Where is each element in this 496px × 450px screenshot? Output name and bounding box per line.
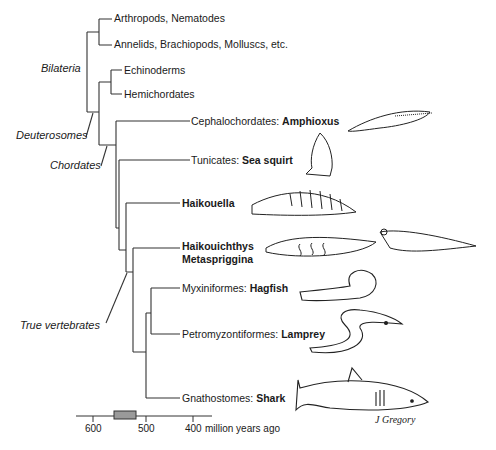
taxon-hemichordates: Hemichordates [124, 88, 195, 100]
taxon-myxiniformes: Myxiniformes: Hagfish [182, 282, 288, 294]
haikouichthys-drawing [266, 237, 376, 256]
hagfish-drawing [300, 270, 376, 300]
taxon-echinoderms: Echinoderms [124, 64, 185, 76]
artist-credit: J Gregory [375, 414, 415, 425]
taxon-haikouichthys: Haikouichthys [182, 240, 254, 252]
taxon-metaspriggina: Metaspriggina [182, 253, 253, 265]
time-axis [76, 411, 212, 422]
axis-tick-400: 400 [185, 423, 202, 434]
axis-unit-label: million years ago [205, 423, 280, 434]
clade-true-vertebrates: True vertebrates [20, 319, 100, 331]
taxon-gnathostomes: Gnathostomes: Shark [182, 392, 285, 404]
shark-drawing [296, 368, 428, 410]
axis-tick-500: 500 [138, 423, 155, 434]
haikouella-drawing [252, 190, 356, 215]
taxon-cephalochordates: Cephalochordates: Amphioxus [191, 115, 339, 127]
sea-squirt-drawing [306, 133, 332, 176]
axis-tick-600: 600 [85, 423, 102, 434]
taxon-tunicates: Tunicates: Sea squirt [191, 154, 293, 166]
clade-bilateria: Bilateria [41, 62, 81, 74]
metaspriggina-drawing [380, 229, 476, 251]
amphioxus-drawing [348, 111, 432, 131]
taxon-petromyzontiformes: Petromyzontiformes: Lamprey [182, 328, 325, 340]
clade-chordates: Chordates [50, 159, 101, 171]
taxon-haikouella: Haikouella [182, 197, 235, 209]
taxon-arthropods: Arthropods, Nematodes [114, 12, 225, 24]
clade-deuterosomes: Deuterosomes [16, 129, 88, 141]
taxon-annelids: Annelids, Brachiopods, Molluscs, etc. [114, 38, 288, 50]
